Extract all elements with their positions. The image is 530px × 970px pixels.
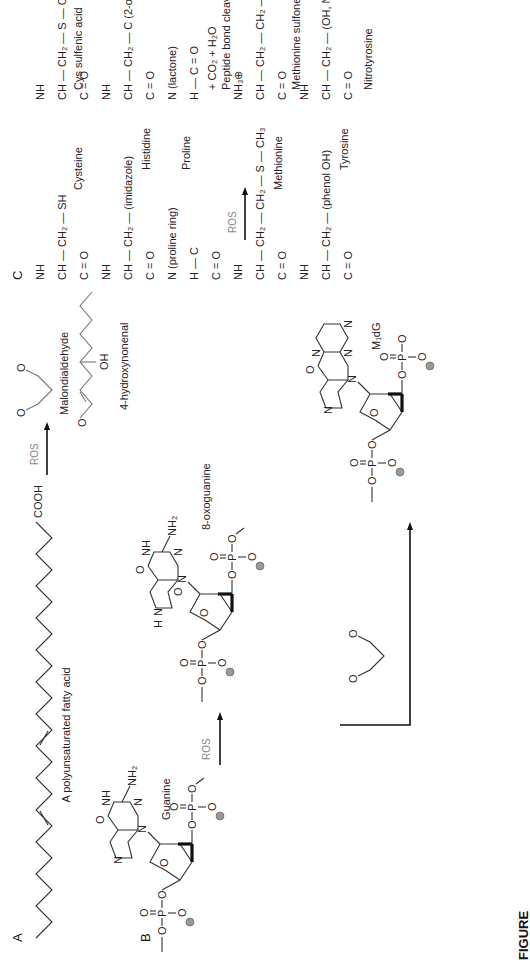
oxoguanine-structure: O P O O O O O P O O O xyxy=(134,516,264,702)
svg-text:C = O: C = O xyxy=(210,251,222,280)
figure-canvas: A COOH A polyunsaturated fatty acid ROS … xyxy=(0,0,530,970)
m1dg-structure: O P O O O O O P O O O N xyxy=(304,320,434,502)
mda-arrow xyxy=(340,530,410,725)
svg-text:O: O xyxy=(198,608,210,617)
svg-text:O: O xyxy=(368,408,380,417)
svg-text:NH: NH xyxy=(34,264,46,280)
panel-a-label: A xyxy=(10,933,25,942)
proline-label: Proline xyxy=(180,136,192,170)
svg-text:C = O: C = O xyxy=(276,71,288,100)
phosphate-o: O xyxy=(156,926,168,935)
fatty-acid-chain xyxy=(36,522,52,938)
guanine-nh2: NH₂ xyxy=(126,766,138,786)
phosphate-double-o: O xyxy=(138,908,150,917)
negative-charge-icon xyxy=(226,668,234,676)
hne-structure: O OH xyxy=(76,292,110,427)
arrow-head-icon xyxy=(407,522,413,530)
guanine-label: Guanine xyxy=(160,778,172,820)
svg-text:H — C: H — C xyxy=(188,247,200,280)
svg-text:NH₂: NH₂ xyxy=(166,516,178,536)
phosphate-o: O xyxy=(186,784,198,793)
svg-text:CH — CH₂ — (OH, N⊕=O, O⊖): CH — CH₂ — (OH, N⊕=O, O⊖) xyxy=(320,0,332,100)
phosphate-o: O xyxy=(186,820,198,829)
svg-text:N (proline ring): N (proline ring) xyxy=(166,207,178,280)
svg-text:O: O xyxy=(347,629,359,638)
svg-text:C = O: C = O xyxy=(342,251,354,280)
guanine-carbonyl-o: O xyxy=(94,815,106,824)
negative-charge-icon xyxy=(216,812,224,820)
co2-h2o-label: + CO₂ + H₂O xyxy=(206,26,218,90)
panel-c-label: C xyxy=(10,271,25,280)
hne-o: O xyxy=(76,418,88,427)
guanine-structure: O P O O O O O P O O O xyxy=(94,766,224,952)
phosphate-o-minus: O xyxy=(206,802,218,811)
svg-text:O: O xyxy=(208,552,220,561)
oxoguanine-label: 8-oxoguanine xyxy=(200,463,212,530)
svg-text:O: O xyxy=(172,587,184,596)
cys-sulfenic-label: Cys sulfenic acid xyxy=(72,7,84,90)
svg-text:CH — CH₂ — SH: CH — CH₂ — SH xyxy=(56,194,68,280)
arrow-head-icon xyxy=(217,712,223,720)
svg-text:O: O xyxy=(196,676,208,685)
rotated-figure: A COOH A polyunsaturated fatty acid ROS … xyxy=(0,0,530,970)
svg-text:O: O xyxy=(378,352,390,361)
mda-label: Malondialdehyde xyxy=(58,332,70,415)
mda-o2: O xyxy=(15,363,27,372)
phosphate-o-minus: O xyxy=(176,908,188,917)
svg-text:O: O xyxy=(366,476,378,485)
panel-b: B O P O O O O O P O xyxy=(94,320,434,952)
arrow-head-icon xyxy=(44,422,50,430)
negative-charge-icon xyxy=(256,562,264,570)
m1dg-label: M₁dG xyxy=(370,322,382,350)
svg-text:N: N xyxy=(322,406,334,414)
svg-text:O: O xyxy=(216,658,228,667)
negative-charge-icon xyxy=(186,918,194,926)
svg-text:P: P xyxy=(396,354,408,361)
hne-label: 4-hydroxynonenal xyxy=(118,323,130,410)
svg-text:NH: NH xyxy=(34,84,46,100)
histidine-label: Histidine xyxy=(140,128,152,170)
methionine-label: Methionine xyxy=(272,136,284,190)
svg-text:O: O xyxy=(348,458,360,467)
svg-text:NH: NH xyxy=(140,540,152,556)
mda-o1: O xyxy=(15,408,27,417)
svg-text:H: H xyxy=(152,620,164,628)
svg-text:N: N xyxy=(310,349,322,357)
svg-text:O: O xyxy=(416,352,428,361)
guanine-nh: NH xyxy=(100,790,112,806)
phosphate-p: P xyxy=(186,804,198,811)
svg-text:CH — CH₂ — CH₂ — S(=O)(=O) — C: CH — CH₂ — CH₂ — S(=O)(=O) — CH₃ xyxy=(254,0,266,100)
sugar-o: O xyxy=(158,858,170,867)
fatty-acid-label: A polyunsaturated fatty acid xyxy=(60,667,72,802)
svg-text:O: O xyxy=(396,334,408,343)
svg-text:N: N xyxy=(172,548,184,556)
svg-text:N: N xyxy=(342,349,354,357)
guanine-n7: N xyxy=(112,856,124,864)
svg-text:NH: NH xyxy=(100,264,112,280)
svg-text:O: O xyxy=(226,534,238,543)
svg-text:O: O xyxy=(134,565,146,574)
svg-text:CH — CH₂ — (phenol OH): CH — CH₂ — (phenol OH) xyxy=(320,150,332,280)
guanine-n3: N xyxy=(132,798,144,806)
cooh-group: COOH xyxy=(32,485,44,518)
svg-text:NH: NH xyxy=(232,264,244,280)
svg-text:O: O xyxy=(246,552,258,561)
negative-charge-icon xyxy=(426,362,434,370)
svg-text:CH — CH₂ — S — OH: CH — CH₂ — S — OH xyxy=(56,0,68,100)
double-bond-1 xyxy=(40,811,48,825)
svg-text:O: O xyxy=(366,440,378,449)
svg-text:CH — CH₂ — (imidazole): CH — CH₂ — (imidazole) xyxy=(122,156,134,280)
arrow-head-icon xyxy=(242,187,248,195)
svg-text:C = O: C = O xyxy=(342,71,354,100)
ros-label-a: ROS xyxy=(29,443,40,465)
svg-text:N: N xyxy=(152,608,164,616)
svg-text:O: O xyxy=(347,674,359,683)
phosphate-p: P xyxy=(156,910,168,917)
malondialdehyde-structure: O O xyxy=(15,363,52,417)
svg-text:NH: NH xyxy=(100,84,112,100)
svg-text:P: P xyxy=(226,554,238,561)
svg-text:N (lactone): N (lactone) xyxy=(166,46,178,100)
svg-text:O: O xyxy=(226,570,238,579)
nitrotyrosine-label: Nitrotyrosine xyxy=(362,28,374,90)
svg-text:O: O xyxy=(178,658,190,667)
